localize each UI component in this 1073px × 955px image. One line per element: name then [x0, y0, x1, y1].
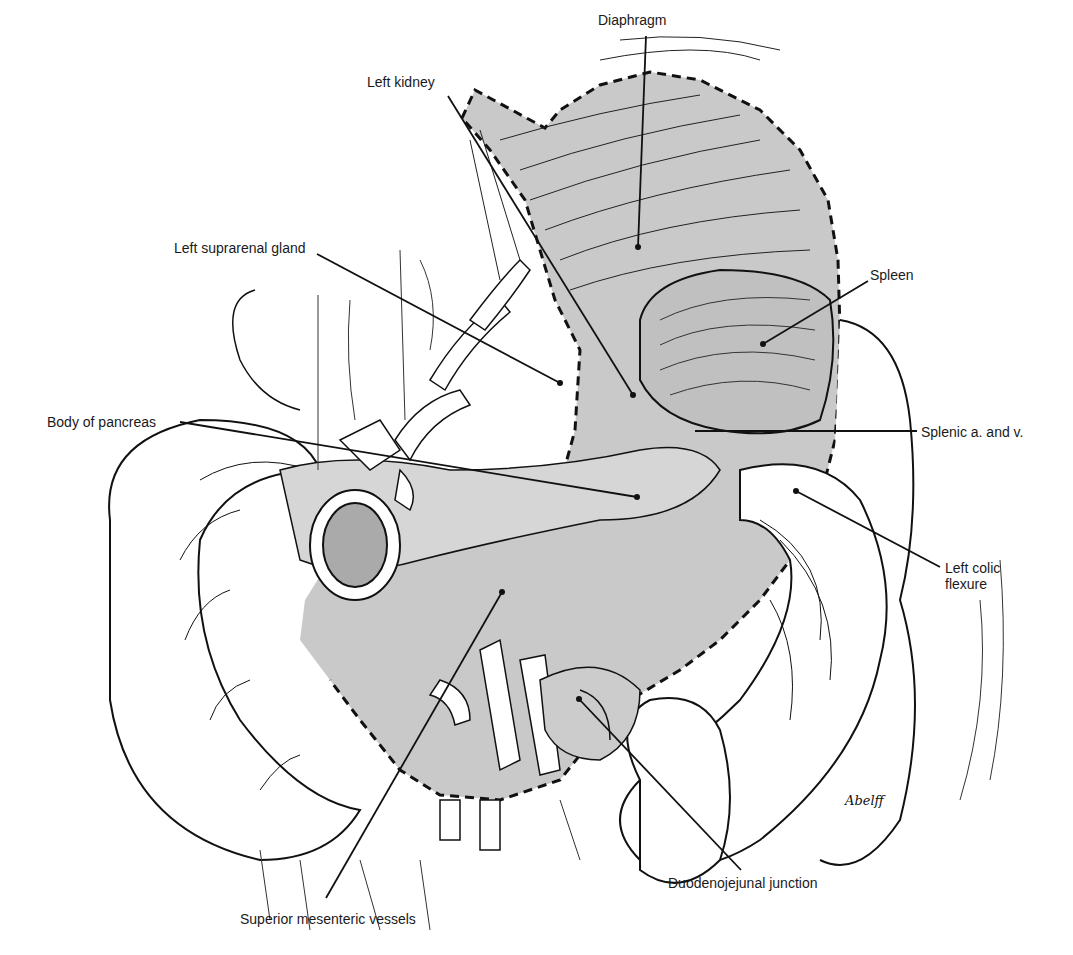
label-superior-mesenteric-vessels: Superior mesenteric vessels [240, 911, 416, 927]
label-left-suprarenal-gland: Left suprarenal gland [174, 240, 306, 256]
label-diaphragm: Diaphragm [598, 12, 666, 28]
label-left-colic-flexure: Left colic flexure [945, 560, 1000, 592]
artist-signature: Abelff [845, 793, 884, 808]
label-spleen: Spleen [870, 267, 914, 283]
label-splenic-a-and-v: Splenic a. and v. [921, 424, 1023, 440]
duodenum-opening [310, 490, 400, 600]
label-left-kidney: Left kidney [367, 74, 435, 90]
spleen-shape [640, 270, 833, 433]
label-body-of-pancreas: Body of pancreas [47, 414, 156, 430]
anatomy-illustration [0, 0, 1073, 955]
label-duodenojejunal-junction: Duodenojejunal junction [668, 875, 817, 891]
